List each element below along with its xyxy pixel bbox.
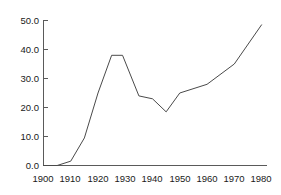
y-axis-group: 50.0 40.0 30.0 20.0 10.0 0.0 bbox=[21, 15, 48, 171]
x-tick-label-1910: 1910 bbox=[59, 173, 80, 184]
y-tick-label-0: 0.0 bbox=[26, 160, 39, 171]
x-tick-label-1920: 1920 bbox=[87, 173, 108, 184]
x-axis-group: 1900 1910 1920 1930 1940 1950 1960 1970 … bbox=[32, 166, 271, 185]
x-tick-label-1970: 1970 bbox=[223, 173, 244, 184]
x-tick-label-1900: 1900 bbox=[32, 173, 53, 184]
line-chart: 50.0 40.0 30.0 20.0 10.0 0.0 1900 1910 1… bbox=[0, 0, 281, 195]
chart-container: 50.0 40.0 30.0 20.0 10.0 0.0 1900 1910 1… bbox=[0, 0, 281, 195]
x-tick-label-1960: 1960 bbox=[196, 173, 217, 184]
y-tick-label-20: 20.0 bbox=[21, 102, 40, 113]
data-line-series-1 bbox=[44, 25, 262, 166]
y-tick-label-30: 30.0 bbox=[21, 73, 40, 84]
plot-area bbox=[44, 25, 262, 166]
x-tick-label-1950: 1950 bbox=[169, 173, 190, 184]
x-tick-label-1930: 1930 bbox=[114, 173, 135, 184]
x-tick-label-1980: 1980 bbox=[250, 173, 271, 184]
y-tick-label-10: 10.0 bbox=[21, 131, 40, 142]
y-tick-label-40: 40.0 bbox=[21, 44, 40, 55]
y-tick-label-50: 50.0 bbox=[21, 15, 40, 26]
x-tick-label-1940: 1940 bbox=[141, 173, 162, 184]
